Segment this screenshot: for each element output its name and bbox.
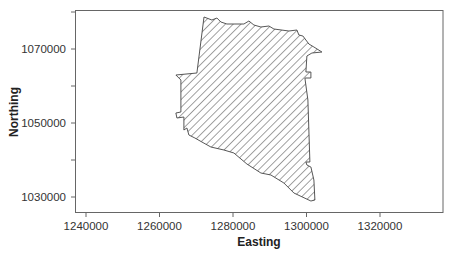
- x-tick-label: 1300000: [284, 220, 329, 232]
- study-area-polygon: [176, 17, 322, 201]
- y-axis: 103000010500001070000: [21, 12, 75, 203]
- x-tick-label: 1260000: [137, 220, 182, 232]
- map-chart: 12400001260000128000013000001320000 1030…: [0, 0, 451, 259]
- y-tick-label: 1050000: [21, 117, 66, 129]
- boundary-polygon: [176, 17, 322, 201]
- y-tick-label: 1030000: [21, 191, 66, 203]
- x-axis: 12400001260000128000013000001320000: [64, 213, 403, 233]
- x-tick-label: 1240000: [64, 220, 109, 232]
- x-axis-title: Easting: [237, 235, 280, 249]
- y-tick-label: 1070000: [21, 43, 66, 55]
- x-tick-label: 1320000: [358, 220, 403, 232]
- x-tick-label: 1280000: [211, 220, 256, 232]
- y-axis-title: Northing: [7, 87, 21, 137]
